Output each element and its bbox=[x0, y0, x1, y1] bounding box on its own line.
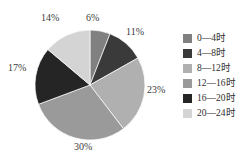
legend-color-swatch-icon bbox=[183, 94, 192, 103]
legend-item-label: 0—4时 bbox=[197, 33, 226, 44]
legend-color-swatch-icon bbox=[183, 109, 192, 118]
legend-item[interactable]: 20—24时 bbox=[183, 106, 245, 121]
pie-slice-percent-label: 30% bbox=[74, 141, 92, 152]
legend-item-label: 4—8时 bbox=[197, 48, 226, 59]
pie-slice-percent-label: 14% bbox=[41, 12, 59, 23]
chart-legend: 0—4时4—8时8—12时12—16时16—20时20—24时 bbox=[183, 31, 245, 121]
pie-chart-figure: 6%11%23%30%17%14% 0—4时4—8时8—12时12—16时16—… bbox=[0, 0, 248, 158]
legend-item[interactable]: 0—4时 bbox=[183, 31, 245, 46]
legend-item[interactable]: 16—20时 bbox=[183, 91, 245, 106]
legend-item-label: 12—16时 bbox=[197, 78, 236, 89]
pie-slice-percent-label: 17% bbox=[8, 62, 26, 73]
pie-slice-percent-label: 11% bbox=[126, 26, 144, 37]
legend-color-swatch-icon bbox=[183, 49, 192, 58]
pie-slice-percent-label: 6% bbox=[86, 12, 99, 23]
pie-svg bbox=[0, 0, 175, 158]
legend-color-swatch-icon bbox=[183, 79, 192, 88]
legend-item-label: 20—24时 bbox=[197, 108, 236, 119]
legend-item[interactable]: 12—16时 bbox=[183, 76, 245, 91]
legend-item-label: 16—20时 bbox=[197, 93, 236, 104]
pie-plot-area: 6%11%23%30%17%14% bbox=[0, 0, 175, 158]
legend-item[interactable]: 8—12时 bbox=[183, 61, 245, 76]
legend-color-swatch-icon bbox=[183, 34, 192, 43]
pie-slice-percent-label: 23% bbox=[147, 84, 165, 95]
legend-item[interactable]: 4—8时 bbox=[183, 46, 245, 61]
legend-color-swatch-icon bbox=[183, 64, 192, 73]
legend-item-label: 8—12时 bbox=[197, 63, 231, 74]
